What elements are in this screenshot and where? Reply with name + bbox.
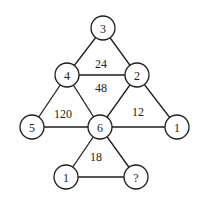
node-label: ? [133, 171, 138, 185]
node-label: 6 [97, 121, 103, 135]
number-triangle-diagram: 3425611? 24481201218 [0, 0, 201, 206]
node-label: 1 [63, 171, 69, 185]
node-label: 4 [64, 69, 70, 83]
face-product-label: 48 [95, 81, 107, 95]
number-node: 3 [91, 16, 115, 40]
node-label: 3 [100, 22, 106, 36]
number-node: 1 [54, 165, 78, 189]
number-node: 4 [55, 63, 79, 87]
nodes: 3425611? [20, 16, 189, 189]
number-node: 6 [88, 115, 112, 139]
unknown-node: ? [124, 165, 148, 189]
number-node: 1 [165, 115, 189, 139]
number-node: 5 [20, 115, 44, 139]
node-label: 1 [174, 121, 180, 135]
face-product-label: 24 [95, 57, 107, 71]
node-label: 2 [134, 69, 140, 83]
face-product-label: 12 [132, 105, 144, 119]
face-product-label: 120 [54, 107, 72, 121]
number-node: 2 [125, 63, 149, 87]
face-product-label: 18 [90, 150, 102, 164]
node-label: 5 [29, 121, 35, 135]
edges [32, 28, 177, 177]
